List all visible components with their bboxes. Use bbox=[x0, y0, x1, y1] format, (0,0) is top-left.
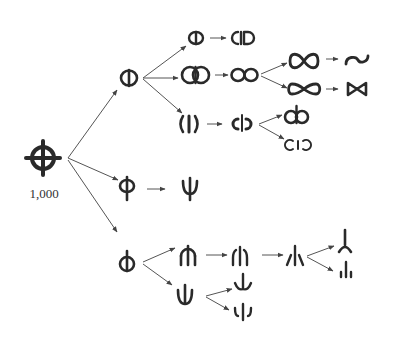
d-b-ligature-icon bbox=[285, 106, 308, 123]
split-u-icon bbox=[235, 304, 251, 320]
diagram-canvas bbox=[0, 0, 394, 338]
circle-vertical-bar-icon bbox=[121, 70, 137, 86]
open-arc-bar-icon bbox=[233, 247, 247, 265]
double-circle-bar-icon bbox=[182, 67, 209, 83]
c-i-reversed-c-icon bbox=[285, 140, 311, 150]
n1c1-edges bbox=[259, 115, 284, 139]
parens-bar-icon bbox=[181, 116, 198, 132]
open-c-bar-d-icon bbox=[232, 32, 254, 44]
n3-edges bbox=[143, 248, 175, 285]
circle-bar-top-icon bbox=[120, 251, 134, 271]
half-circle-bar-icon bbox=[181, 246, 195, 265]
root-count-label: 1,000 bbox=[18, 186, 70, 202]
psi-icon bbox=[183, 178, 197, 200]
dot-bar-dot-icon bbox=[341, 262, 351, 277]
root-edges bbox=[68, 90, 118, 232]
n3a2-edges bbox=[307, 246, 334, 271]
infinity-icon bbox=[290, 54, 318, 68]
s-curve-icon bbox=[346, 56, 368, 64]
slash-bar-slash-icon bbox=[287, 246, 303, 265]
figure-eight-icon bbox=[232, 69, 258, 81]
trident-u-icon bbox=[235, 274, 251, 289]
phi-icon bbox=[120, 177, 134, 200]
n1-edges bbox=[143, 46, 186, 113]
u-bar-icon bbox=[178, 285, 192, 304]
u-bar-edges bbox=[206, 289, 232, 310]
glyph-tree-diagram: 1,000 bbox=[0, 0, 394, 338]
c-bar-reversed-c-icon bbox=[233, 115, 251, 131]
bowtie-icon bbox=[289, 84, 320, 94]
root-circle-cross-icon bbox=[26, 141, 60, 175]
inverted-y-icon bbox=[339, 230, 351, 252]
n1b1-edges bbox=[261, 63, 287, 88]
circle-bar-small-icon bbox=[189, 32, 203, 44]
bowtie-small-icon bbox=[348, 83, 366, 95]
